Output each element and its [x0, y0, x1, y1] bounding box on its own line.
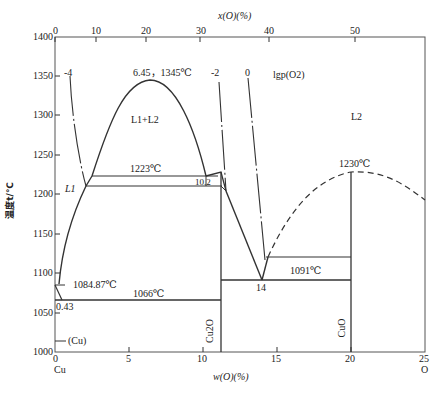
miscibility-gap-curve — [92, 80, 206, 176]
l2-liquidus-dashed — [268, 172, 425, 257]
monotectic-comp-label: 10.2 — [195, 178, 211, 187]
top-ticks — [55, 37, 355, 42]
x-tick: 25 — [419, 354, 429, 364]
monotectic-label: 1223℃ — [130, 164, 161, 174]
miscibility-peak-label: 6.45，1345℃ — [133, 68, 192, 78]
x2-tick: 0 — [53, 26, 58, 36]
plot-frame — [55, 37, 425, 352]
x-tick: 0 — [53, 354, 58, 364]
x-axis-label: w(O)(%) — [213, 372, 249, 382]
cu-melting-label: 1084.87℃ — [73, 280, 117, 290]
x2-tick: 10 — [91, 26, 101, 36]
x-tick: 5 — [126, 354, 131, 364]
y-tick: 1050 — [33, 308, 53, 318]
x2-tick: 50 — [350, 26, 360, 36]
x2-tick: 30 — [196, 26, 206, 36]
eutectic-solubility-label: 0.43 — [56, 302, 74, 312]
y-tick: 1000 — [33, 347, 53, 357]
cu-solid-label: (Cu) — [68, 336, 86, 346]
cu2o-label: Cu2O — [205, 319, 215, 343]
y-tick: 1250 — [33, 150, 53, 160]
isobar-title: lgp(O2) — [273, 70, 305, 80]
y-axis-label: 温度t/℃ — [6, 182, 15, 219]
eutectic-label: 1066℃ — [133, 289, 164, 299]
eutectic2-label: 1091℃ — [290, 266, 321, 276]
x2-axis-label: x(O)(%) — [218, 11, 251, 21]
bottom-ticks — [129, 347, 351, 352]
l2-label: L2 — [351, 112, 362, 122]
y-tick: 1400 — [33, 32, 53, 42]
isobar-minus2 — [219, 82, 226, 191]
two-liquid-label: L1+L2 — [131, 115, 159, 125]
x-end-right: O — [421, 365, 428, 375]
y-tick: 1300 — [33, 110, 53, 120]
isobar-0 — [248, 78, 265, 260]
y-tick: 1200 — [33, 189, 53, 199]
isobar-minus4 — [70, 76, 86, 186]
x2-tick: 20 — [141, 26, 151, 36]
x-tick: 10 — [197, 354, 207, 364]
cuo-label: CuO — [337, 319, 347, 338]
isobar-label: -2 — [211, 68, 219, 78]
cuo-peak-label: 1230℃ — [339, 159, 370, 169]
isobar-label: 0 — [245, 68, 250, 78]
eutectic2-comp-label: 14 — [256, 283, 266, 293]
y-tick: 1150 — [33, 229, 53, 239]
l1-label: L1 — [65, 184, 76, 194]
isobar-label: -4 — [64, 68, 72, 78]
y-tick: 1100 — [33, 268, 53, 278]
cu2o-liquidus — [226, 191, 262, 280]
cu-o-phase-diagram — [0, 0, 438, 393]
x-tick: 15 — [271, 354, 281, 364]
y-tick: 1350 — [33, 71, 53, 81]
x-tick: 20 — [345, 354, 355, 364]
x-end-left: Cu — [54, 365, 66, 375]
x2-tick: 40 — [264, 26, 274, 36]
